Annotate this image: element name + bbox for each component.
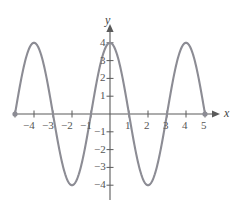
plot-canvas [0, 0, 238, 219]
curve-endpoint-dot [12, 111, 17, 116]
y-tick-label: −4 [94, 179, 106, 190]
x-axis-arrowhead [212, 110, 220, 117]
y-tick-label: −3 [94, 161, 106, 172]
x-tick-label: 5 [201, 120, 207, 131]
y-tick-label: −2 [94, 144, 106, 155]
x-tick-label: −1 [80, 120, 92, 131]
y-axis [106, 24, 113, 200]
curve-endpoint-dot [202, 111, 207, 116]
y-tick-label: 3 [100, 55, 106, 66]
y-tick-label: 2 [100, 72, 106, 83]
x-tick-label: 4 [182, 120, 188, 131]
x-tick-label: −2 [61, 120, 73, 131]
x-axis-label: x [224, 107, 229, 119]
x-tick-label: 2 [144, 120, 150, 131]
y-tick-label: −1 [94, 126, 106, 137]
graph-figure: x y −4−3−2−1123454321−1−2−3−4 [0, 0, 238, 219]
y-tick-label: 1 [100, 90, 106, 101]
x-tick-label: 3 [163, 120, 169, 131]
y-tick-label: 4 [100, 37, 106, 48]
y-axis-label: y [105, 14, 110, 26]
x-axis [14, 110, 220, 117]
x-tick-label: 1 [125, 120, 131, 131]
x-tick-label: −3 [42, 120, 54, 131]
x-tick-label: −4 [23, 120, 35, 131]
